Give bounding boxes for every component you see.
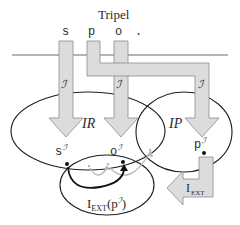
faded-dot: [88, 165, 90, 167]
triple-terminator: .: [135, 25, 142, 39]
extension-function-arrow: [167, 157, 213, 205]
predicate-interpreted-sup: ℐ: [202, 136, 207, 145]
ir-set-label: IR: [81, 116, 96, 131]
ip-set-ellipse: [136, 92, 232, 172]
subject-interpreted-label: s: [55, 145, 62, 159]
ir-set-ellipse: [11, 92, 165, 170]
rdf-semantics-diagram: Tripel s p o . ℐ ℐ ℐ IR IP s ℐ o ℐ p ℐ I…: [0, 0, 240, 225]
triple-object: o: [115, 25, 122, 39]
extension-function-label: I: [186, 181, 190, 195]
triple-subject: s: [62, 25, 69, 39]
diagram-title: Tripel: [98, 7, 130, 22]
object-interpreted-sup: ℐ: [118, 143, 123, 152]
extension-set-label: IEXT(pℐ): [87, 196, 126, 213]
extension-function-sub: EXT: [191, 189, 205, 197]
triple-predicate: p: [88, 25, 95, 39]
ip-set-label: IP: [168, 116, 183, 131]
subject-node-dot: [65, 162, 69, 166]
subject-interpreted-sup: ℐ: [63, 143, 68, 152]
faded-dot: [107, 163, 109, 165]
object-node-dot: [121, 160, 125, 164]
predicate-node-dot: [202, 151, 206, 155]
predicate-interpreted-label: p: [194, 138, 201, 152]
object-interpreted-label: o: [110, 145, 117, 159]
